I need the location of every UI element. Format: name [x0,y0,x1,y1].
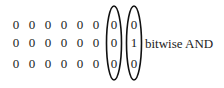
bit: 0 [59,18,69,31]
bit: 0 [27,57,37,70]
bit: 0 [109,36,119,49]
bit: 0 [11,36,21,49]
bit: 0 [75,18,85,31]
bit: 0 [59,57,69,70]
bit: 1 [129,36,139,49]
bit: 0 [59,36,69,49]
bit: 0 [91,57,101,70]
bit: 0 [11,18,21,31]
bit: 0 [43,18,53,31]
bit: 0 [129,18,139,31]
bit: 0 [109,18,119,31]
bit: 0 [91,36,101,49]
bit: 0 [109,57,119,70]
bit: 0 [11,57,21,70]
bit: 0 [27,18,37,31]
bit: 0 [43,57,53,70]
bit: 0 [27,36,37,49]
bit: 0 [75,36,85,49]
bit: 0 [129,57,139,70]
operation-label: bitwise AND [145,36,213,52]
bit: 0 [75,57,85,70]
bit: 0 [91,18,101,31]
bit: 0 [43,36,53,49]
